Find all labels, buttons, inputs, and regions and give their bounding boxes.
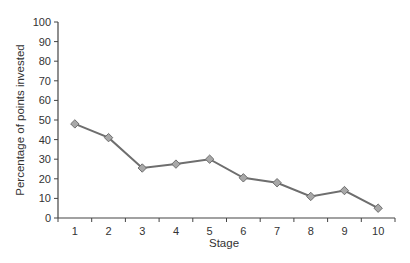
y-tick-label: 10 <box>39 192 51 204</box>
y-tick-label: 100 <box>33 16 51 28</box>
data-point-marker <box>172 160 180 168</box>
x-tick-label: 2 <box>105 225 111 237</box>
x-axis: 12345678910 <box>58 218 395 237</box>
x-tick-label: 10 <box>372 225 384 237</box>
data-point-marker <box>340 186 348 194</box>
x-tick-label: 5 <box>207 225 213 237</box>
data-series <box>71 120 383 213</box>
y-tick-label: 0 <box>45 212 51 224</box>
y-tick-label: 50 <box>39 114 51 126</box>
data-point-marker <box>239 174 247 182</box>
data-point-marker <box>307 192 315 200</box>
x-tick-label: 7 <box>274 225 280 237</box>
x-tick-label: 1 <box>72 225 78 237</box>
x-tick-label: 3 <box>139 225 145 237</box>
x-axis-title: Stage <box>209 237 239 249</box>
x-tick-label: 9 <box>341 225 347 237</box>
x-tick-label: 4 <box>173 225 179 237</box>
line-chart: 0102030405060708090100 12345678910 Stage… <box>0 0 410 263</box>
data-point-marker <box>205 155 213 163</box>
y-tick-label: 20 <box>39 173 51 185</box>
x-tick-label: 8 <box>308 225 314 237</box>
data-point-marker <box>71 120 79 128</box>
y-axis: 0102030405060708090100 <box>33 16 58 224</box>
y-axis-title: Percentage of points invested <box>14 44 26 196</box>
series-line <box>75 124 378 208</box>
y-tick-label: 90 <box>39 36 51 48</box>
y-tick-label: 80 <box>39 55 51 67</box>
data-point-marker <box>374 204 382 212</box>
x-tick-label: 6 <box>240 225 246 237</box>
y-tick-label: 30 <box>39 153 51 165</box>
y-tick-label: 60 <box>39 94 51 106</box>
data-point-marker <box>273 179 281 187</box>
y-tick-label: 40 <box>39 134 51 146</box>
y-tick-label: 70 <box>39 75 51 87</box>
